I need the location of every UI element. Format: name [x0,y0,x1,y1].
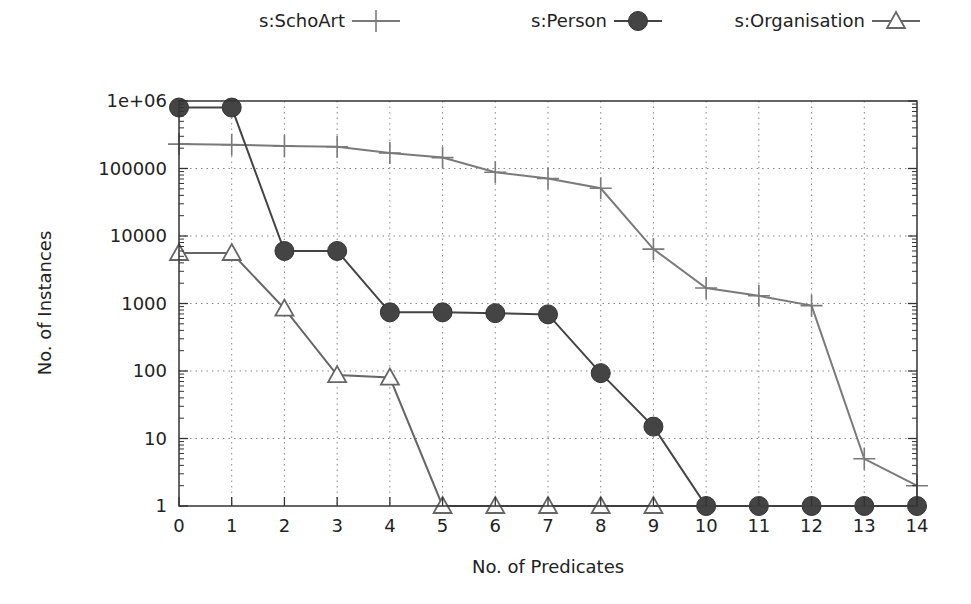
x-axis-label: No. of Predicates [472,556,624,577]
x-tick-label: 4 [384,515,395,536]
plus-marker-icon [221,134,243,156]
plus-marker-icon [537,168,559,190]
circle-marker-icon [328,241,347,260]
y-tick-label: 100 [133,360,167,381]
x-tick-label: 11 [747,515,770,536]
plus-marker-icon [484,161,506,183]
circle-marker-icon [433,303,452,322]
circle-marker-icon [591,364,610,383]
grid-lines [179,101,917,506]
legend-label: s:Organisation [735,10,865,31]
legend-item: s:SchoArt [259,10,400,32]
y-tick-label: 10 [144,428,167,449]
x-tick-label: 8 [595,515,606,536]
plus-marker-icon [326,136,348,158]
x-tick-label: 3 [331,515,342,536]
line-chart: 0123456789101112131411010010001000010000… [0,0,971,604]
plus-marker-icon [801,295,823,317]
legend-label: s:Person [531,10,607,31]
plus-marker-icon [432,147,454,169]
y-tick-label: 100000 [98,158,167,179]
y-tick-label: 10000 [110,225,167,246]
y-tick-label: 1 [156,495,167,516]
x-tick-label: 2 [279,515,290,536]
x-tick-label: 6 [490,515,501,536]
plus-marker-icon [379,142,401,164]
series-s-organisation [170,244,662,513]
x-tick-label: 5 [437,515,448,536]
circle-marker-icon [486,304,505,323]
x-tick-label: 9 [648,515,659,536]
x-tick-label: 1 [226,515,237,536]
y-tick-label: 1e+06 [106,90,167,111]
x-tick-label: 0 [173,515,184,536]
y-tick-label: 1000 [121,293,167,314]
legend: s:SchoArts:Persons:Organisation [259,10,920,32]
circle-marker-icon [629,12,648,31]
series-layer [168,98,928,515]
x-tick-label: 7 [542,515,553,536]
series-line [179,253,653,506]
y-axis-label: No. of Instances [34,231,55,376]
plus-marker-icon [853,448,875,470]
plus-marker-icon [273,135,295,157]
plus-marker-icon [365,10,387,32]
x-tick-label: 12 [800,515,823,536]
plus-marker-icon [695,277,717,299]
x-tick-label: 10 [695,515,718,536]
x-tick-label: 13 [853,515,876,536]
legend-item: s:Organisation [735,10,920,31]
circle-marker-icon [539,305,558,324]
circle-marker-icon [644,417,663,436]
circle-marker-icon [380,303,399,322]
legend-label: s:SchoArt [259,10,345,31]
legend-item: s:Person [531,10,662,31]
x-tick-label: 14 [906,515,929,536]
circle-marker-icon [275,241,294,260]
